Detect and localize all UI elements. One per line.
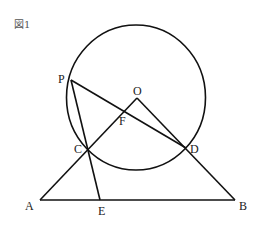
segment-pe bbox=[71, 80, 100, 200]
figure-title: 図1 bbox=[14, 19, 30, 30]
segment-ob bbox=[137, 98, 235, 200]
label-d: D bbox=[190, 142, 199, 156]
label-e: E bbox=[98, 204, 105, 218]
label-o: O bbox=[133, 84, 142, 98]
label-p: P bbox=[58, 72, 65, 86]
segment-pd bbox=[71, 80, 186, 148]
label-a: A bbox=[25, 199, 34, 213]
label-b: B bbox=[239, 199, 247, 213]
geometry-figure: 図1 P O F C D A E B bbox=[0, 0, 265, 225]
label-c: C bbox=[74, 142, 82, 156]
label-f: F bbox=[119, 114, 126, 128]
